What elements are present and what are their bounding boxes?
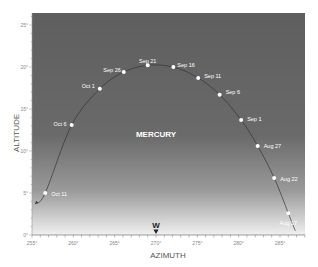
point-marker-icon <box>256 144 260 148</box>
point-date-label: Sep 11 <box>204 73 221 79</box>
point-date-label: Sep 26 <box>103 67 120 73</box>
point-marker-icon <box>122 70 126 74</box>
y-axis-title: ALTITUDE <box>12 114 21 152</box>
y-tick-label: 0° <box>23 232 28 238</box>
y-tick-label: 25° <box>20 22 28 28</box>
x-tick-label: 265° <box>109 240 119 246</box>
point-marker-icon <box>196 76 200 80</box>
point-date-label: Oct 6 <box>54 121 67 127</box>
point-date-label: Aug 22 <box>280 176 297 182</box>
y-tick-label: 15° <box>20 106 28 112</box>
y-tick-label: 10° <box>20 148 28 154</box>
x-tick-label: 280° <box>233 240 243 246</box>
point-date-label: Aug 27 <box>264 143 281 149</box>
y-tick-label: 20° <box>20 64 28 70</box>
planet-label: MERCURY <box>136 130 177 139</box>
point-marker-icon <box>239 118 243 122</box>
point-marker-icon <box>286 211 290 215</box>
point-marker-icon <box>43 191 47 195</box>
mercury-altitude-azimuth-chart: 0°5°10°15°20°25° 255°260°265°270°275°280… <box>0 0 318 267</box>
point-date-label: Sep 1 <box>247 116 261 122</box>
x-axis: 255°260°265°270°275°280°285° <box>27 235 305 246</box>
point-date-label: Oct 11 <box>51 191 67 197</box>
y-axis: 0°5°10°15°20°25° <box>20 13 32 238</box>
point-date-label: Aug 17 <box>280 220 297 226</box>
west-label: W <box>152 221 160 230</box>
point-marker-icon <box>218 93 222 97</box>
y-tick-label: 5° <box>23 190 28 196</box>
point-date-label: Sep 16 <box>177 62 194 68</box>
x-tick-label: 275° <box>192 240 202 246</box>
point-date-label: Sep 21 <box>139 58 156 64</box>
x-tick-label: 270° <box>151 240 161 246</box>
point-marker-icon <box>272 176 276 180</box>
x-axis-title: AZIMUTH <box>150 251 186 260</box>
point-date-label: Oct 1 <box>82 83 95 89</box>
x-tick-label: 260° <box>68 240 78 246</box>
point-date-label: Sep 6 <box>226 89 240 95</box>
point-marker-icon <box>146 63 150 67</box>
point-marker-icon <box>70 123 74 127</box>
point-marker-icon <box>171 65 175 69</box>
x-tick-label: 255° <box>27 240 37 246</box>
point-marker-icon <box>98 87 102 91</box>
x-tick-label: 285° <box>275 240 285 246</box>
